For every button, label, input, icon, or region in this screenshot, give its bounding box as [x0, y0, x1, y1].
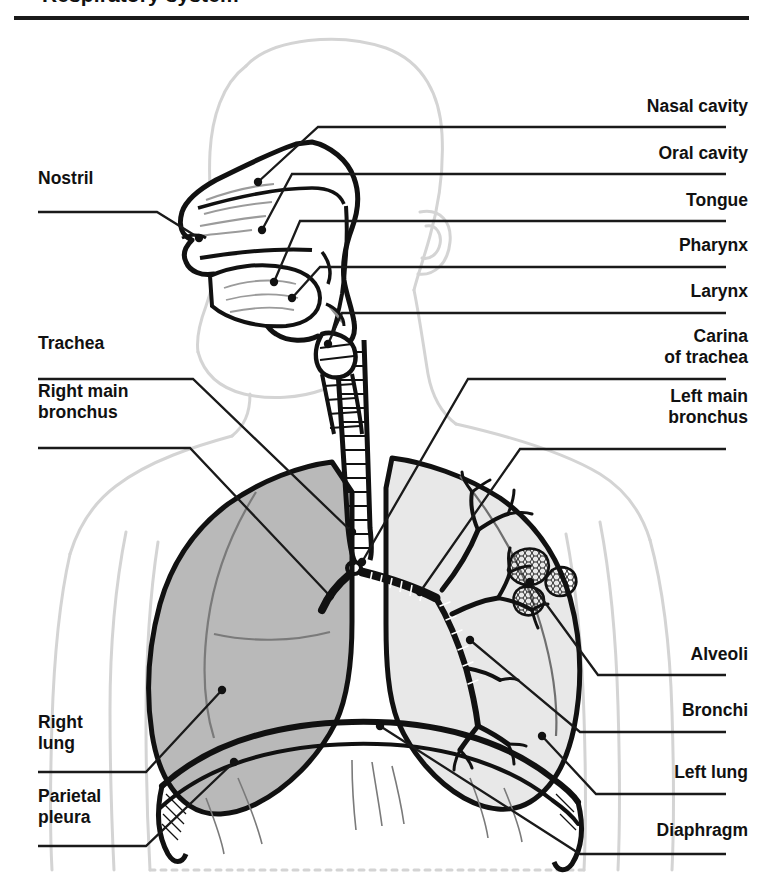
- label-tongue: Tongue: [686, 190, 748, 211]
- label-right-lung: Right lung: [38, 712, 83, 755]
- label-nasal-cavity: Nasal cavity: [647, 96, 748, 117]
- respiratory-system-illustration: [0, 22, 764, 895]
- page-title: Respiratory system: [42, 0, 239, 7]
- label-carina-of-trachea: Carina of trachea: [664, 326, 748, 369]
- label-trachea: Trachea: [38, 333, 104, 354]
- right-lung-shape: [149, 462, 352, 814]
- title-rule: [14, 16, 749, 20]
- label-pharynx: Pharynx: [679, 235, 748, 256]
- label-alveoli: Alveoli: [691, 644, 748, 665]
- left-lung-shape: [386, 458, 580, 809]
- label-left-main-bronchus: Left main bronchus: [668, 386, 748, 429]
- label-left-lung: Left lung: [674, 762, 748, 783]
- label-right-main-bronchus: Right main bronchus: [38, 381, 128, 424]
- label-bronchi: Bronchi: [682, 700, 748, 721]
- respiratory-system-figure-page: Respiratory system: [0, 0, 764, 895]
- label-parietal-pleura: Parietal pleura: [38, 786, 101, 829]
- label-nostril: Nostril: [38, 168, 93, 189]
- label-larynx: Larynx: [691, 281, 748, 302]
- label-oral-cavity: Oral cavity: [659, 143, 749, 164]
- label-diaphragm: Diaphragm: [657, 820, 748, 841]
- head-airway-section: [180, 142, 362, 434]
